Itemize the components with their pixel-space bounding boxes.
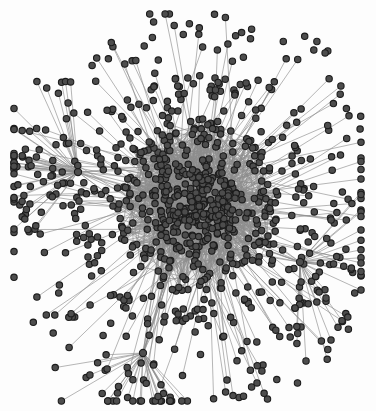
graph-node [242, 246, 248, 252]
graph-node [216, 212, 222, 218]
graph-node [129, 244, 135, 250]
graph-node [105, 56, 111, 62]
graph-node [358, 247, 364, 253]
graph-node [219, 190, 225, 196]
graph-node [103, 187, 109, 193]
graph-node [19, 127, 25, 133]
graph-node [295, 186, 301, 192]
graph-node [228, 128, 234, 134]
graph-node [60, 203, 66, 209]
graph-node [189, 167, 195, 173]
graph-node [242, 143, 248, 149]
graph-node [181, 90, 187, 96]
graph-node [245, 284, 251, 290]
graph-node [155, 57, 161, 63]
graph-node [167, 198, 173, 204]
graph-node [176, 284, 182, 290]
graph-node [148, 293, 154, 299]
graph-node [209, 125, 215, 131]
graph-node [123, 333, 129, 339]
graph-node [142, 255, 148, 261]
graph-node [146, 332, 152, 338]
graph-node [229, 58, 235, 64]
graph-node [123, 305, 129, 311]
graph-node [143, 380, 149, 386]
graph-node [179, 398, 185, 404]
graph-node [196, 233, 202, 239]
graph-node [343, 105, 349, 111]
graph-node [55, 90, 61, 96]
graph-node [40, 179, 46, 185]
graph-node [152, 70, 158, 76]
graph-node [293, 194, 299, 200]
graph-node [202, 141, 208, 147]
graph-node [243, 80, 249, 86]
graph-node [330, 261, 336, 267]
graph-node [266, 250, 272, 256]
graph-node [78, 140, 84, 146]
graph-node [330, 100, 336, 106]
graph-node [271, 79, 277, 85]
graph-node [266, 165, 272, 171]
graph-node [252, 153, 258, 159]
graph-node [211, 310, 217, 316]
graph-node [314, 299, 320, 305]
graph-node [169, 286, 175, 292]
graph-node [164, 142, 170, 148]
graph-node [220, 153, 226, 159]
graph-node [33, 125, 39, 131]
graph-node [99, 240, 105, 246]
graph-node [279, 134, 285, 140]
graph-node [23, 206, 29, 212]
graph-node [244, 338, 250, 344]
graph-node [145, 171, 151, 177]
graph-node [210, 396, 216, 402]
graph-node [209, 225, 215, 231]
graph-node [139, 205, 145, 211]
graph-node [228, 251, 234, 257]
graph-node [245, 99, 251, 105]
graph-node [94, 234, 100, 240]
graph-node [93, 147, 99, 153]
graph-node [36, 147, 42, 153]
graph-node [248, 305, 254, 311]
graph-node [337, 152, 343, 158]
graph-node [205, 176, 211, 182]
graph-node [250, 145, 256, 151]
graph-node [269, 257, 275, 263]
graph-node [103, 352, 109, 358]
graph-node [230, 149, 236, 155]
graph-node [172, 76, 178, 82]
graph-node [175, 311, 181, 317]
graph-node [283, 56, 289, 62]
graph-node [157, 282, 163, 288]
graph-node [125, 227, 131, 233]
graph-node [139, 349, 146, 356]
graph-node [211, 94, 217, 100]
graph-node [289, 160, 295, 166]
graph-node [76, 198, 82, 204]
graph-node [358, 191, 364, 197]
graph-node [260, 188, 266, 194]
graph-node [185, 161, 191, 167]
graph-node [93, 78, 99, 84]
graph-node [115, 154, 121, 160]
graph-node [234, 358, 240, 364]
graph-node [107, 292, 113, 298]
graph-node [180, 306, 186, 312]
graph-node [166, 265, 172, 271]
graph-node [199, 44, 205, 50]
graph-node [22, 146, 28, 152]
graph-node [358, 227, 364, 233]
graph-node [345, 326, 351, 332]
graph-node [200, 266, 206, 272]
graph-node [155, 393, 161, 399]
graph-node [200, 211, 206, 217]
graph-node [177, 203, 183, 209]
graph-node [164, 98, 170, 104]
graph-node [156, 156, 162, 162]
graph-node [196, 203, 202, 209]
network-graph-figure [0, 0, 376, 411]
graph-node [152, 193, 158, 199]
graph-node [297, 226, 303, 232]
